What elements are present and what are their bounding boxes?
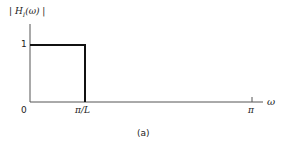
y-axis-label-suffix: (ω) | xyxy=(25,6,45,16)
y-axis-label: | HI(ω) | xyxy=(9,7,45,18)
x-tick-0: 0 xyxy=(21,106,27,115)
chart-plot-area xyxy=(0,0,286,145)
x-axis-label: ω xyxy=(267,97,275,107)
x-tick-pi: π xyxy=(248,106,254,115)
y-tick-1: 1 xyxy=(21,40,27,49)
figure-caption: (a) xyxy=(137,129,150,138)
y-axis-label-H: H xyxy=(15,6,23,16)
x-tick-cutoff: π/L xyxy=(75,106,90,115)
